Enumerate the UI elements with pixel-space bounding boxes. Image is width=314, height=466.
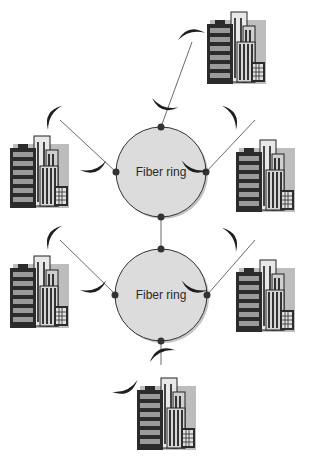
building-icon-top-right	[207, 12, 266, 84]
dish-icon	[222, 102, 242, 130]
dish-icon	[80, 280, 109, 296]
building-icon-lower-left	[10, 256, 69, 328]
building-icon-bottom	[137, 378, 196, 450]
building-icon-upper-right	[236, 140, 295, 212]
fiber-ring-2: Fiber ring	[112, 246, 211, 345]
dish-icon	[42, 222, 62, 250]
building-icon-lower-right	[236, 260, 295, 332]
dish-icon	[222, 224, 242, 252]
dish-icon	[176, 26, 205, 40]
dish-icon	[112, 380, 140, 398]
building-icon-upper-left	[10, 136, 69, 208]
ring-label: Fiber ring	[136, 288, 187, 302]
fiber-ring-diagram: Fiber ring Fiber ring	[0, 0, 314, 466]
ring-label: Fiber ring	[136, 165, 187, 179]
dish-icon	[42, 102, 62, 130]
dish-icon	[150, 98, 179, 114]
dish-icon	[80, 160, 109, 176]
